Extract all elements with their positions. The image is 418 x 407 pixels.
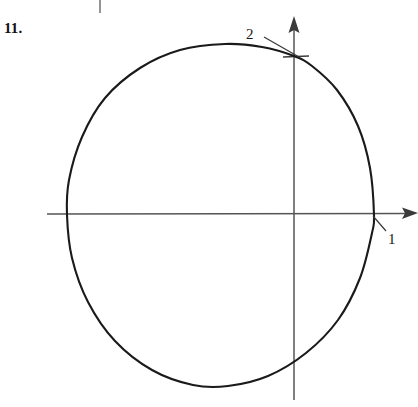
leader-line-x-intercept xyxy=(373,216,386,231)
figure-container: 11. 2 1 xyxy=(0,0,418,407)
x-intercept-label: 1 xyxy=(388,232,396,247)
annotation-leaders xyxy=(264,37,386,231)
axes-group xyxy=(47,16,418,400)
closed-oval-curve xyxy=(67,44,374,387)
y-intercept-label: 2 xyxy=(246,27,254,42)
x-axis-line xyxy=(47,214,414,215)
coordinate-plot-svg xyxy=(0,0,418,407)
curve-group xyxy=(67,44,374,387)
